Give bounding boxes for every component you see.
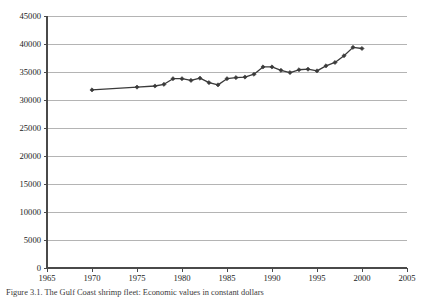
y-axis-tick-label: 30000 (20, 95, 41, 105)
data-point-marker (189, 78, 193, 82)
y-axis-tick-label: 20000 (20, 151, 41, 161)
x-axis-tick-label: 1995 (308, 273, 325, 283)
x-axis-tick-label: 1975 (128, 273, 145, 283)
x-axis-tick-label: 1985 (218, 273, 235, 283)
data-point-marker (360, 46, 364, 50)
y-axis-tick-label: 25000 (20, 123, 41, 133)
line-chart: 0500010000150002000025000300003500040000… (0, 0, 431, 298)
x-axis-tick-label: 1980 (173, 273, 190, 283)
data-point-marker (90, 88, 94, 92)
data-point-marker (243, 75, 247, 79)
data-point-marker (306, 67, 310, 71)
data-line (92, 47, 362, 90)
data-point-marker (135, 85, 139, 89)
y-axis-tick-label: 40000 (20, 39, 41, 49)
x-axis-tick-label: 1990 (263, 273, 280, 283)
data-point-marker (153, 84, 157, 88)
y-axis-tick-label: 15000 (20, 179, 41, 189)
figure-container: 0500010000150002000025000300003500040000… (0, 0, 431, 298)
data-point-marker (198, 76, 202, 80)
data-point-marker (270, 65, 274, 69)
y-axis-tick-label: 35000 (20, 67, 41, 77)
data-point-marker (288, 70, 292, 74)
x-axis-tick-label: 1970 (83, 273, 100, 283)
y-axis-tick-label: 10000 (20, 207, 41, 217)
figure-caption: Figure 3.1. The Gulf Coast shrimp fleet:… (6, 288, 426, 297)
data-point-marker (207, 81, 211, 85)
y-axis-tick-label: 5000 (24, 235, 41, 245)
data-point-marker (234, 76, 238, 80)
y-axis-tick-label: 45000 (20, 11, 41, 21)
x-axis-tick-label: 2000 (353, 273, 370, 283)
data-point-marker (180, 77, 184, 81)
data-point-marker (297, 68, 301, 72)
x-axis-tick-label: 2005 (398, 273, 415, 283)
y-axis-tick-label: 0 (37, 263, 41, 273)
x-axis-tick-label: 1965 (38, 273, 55, 283)
